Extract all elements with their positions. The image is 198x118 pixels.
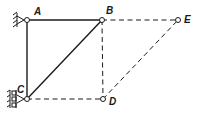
label-e: E bbox=[184, 14, 191, 25]
member-cb bbox=[27, 20, 102, 99]
node-c bbox=[25, 97, 30, 102]
dashed-members bbox=[27, 20, 178, 99]
label-b: B bbox=[106, 5, 113, 16]
node-d bbox=[101, 97, 106, 102]
label-c: C bbox=[17, 84, 25, 95]
node-a bbox=[25, 18, 30, 23]
truss-diagram: A B E C D bbox=[0, 0, 198, 118]
label-a: A bbox=[33, 6, 41, 17]
label-d: D bbox=[109, 96, 116, 107]
solid-members bbox=[27, 20, 102, 99]
member-bd bbox=[102, 20, 103, 99]
member-de bbox=[103, 20, 178, 99]
node-e bbox=[176, 18, 181, 23]
pin-support-a bbox=[13, 12, 24, 27]
node-b bbox=[100, 18, 105, 23]
